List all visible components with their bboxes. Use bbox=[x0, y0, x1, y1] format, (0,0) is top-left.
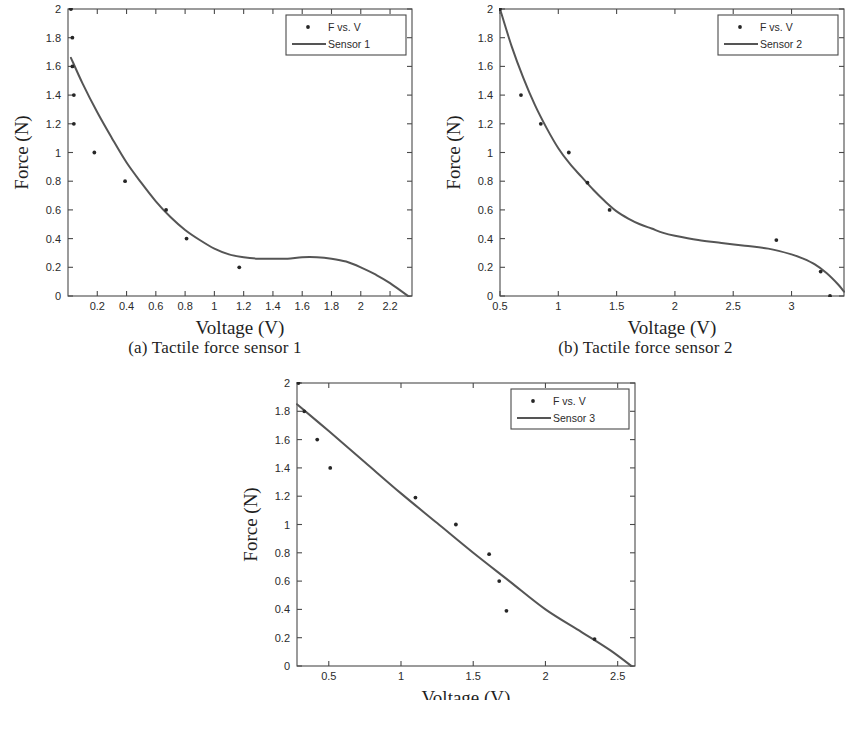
svg-text:0.8: 0.8 bbox=[46, 175, 61, 187]
svg-text:1.2: 1.2 bbox=[275, 490, 290, 502]
svg-text:2: 2 bbox=[55, 3, 61, 15]
svg-text:0.5: 0.5 bbox=[492, 300, 507, 312]
svg-text:1.4: 1.4 bbox=[275, 462, 290, 474]
svg-text:0.8: 0.8 bbox=[177, 300, 192, 312]
svg-text:1: 1 bbox=[211, 300, 217, 312]
x-axis-title: Voltage (V) bbox=[196, 317, 285, 339]
svg-text:2: 2 bbox=[358, 300, 364, 312]
svg-text:0: 0 bbox=[55, 290, 61, 302]
chart-panel-sensor-3: 0.511.522.500.20.40.60.811.21.41.61.82Vo… bbox=[215, 370, 655, 742]
svg-text:2.5: 2.5 bbox=[610, 670, 625, 682]
svg-text:1: 1 bbox=[555, 300, 561, 312]
legend-series-label: Sensor 2 bbox=[760, 38, 802, 50]
svg-text:1.8: 1.8 bbox=[275, 405, 290, 417]
svg-text:1: 1 bbox=[398, 670, 404, 682]
plot-area-sensor-1: 0.20.40.60.811.21.41.61.822.200.20.40.60… bbox=[0, 0, 430, 340]
plot-area-sensor-2: 0.511.522.5300.20.40.60.811.21.41.61.82V… bbox=[430, 0, 861, 340]
svg-text:1.5: 1.5 bbox=[609, 300, 624, 312]
svg-text:2: 2 bbox=[487, 3, 493, 15]
svg-text:0.6: 0.6 bbox=[46, 204, 61, 216]
y-axis-title: Force (N) bbox=[240, 487, 262, 561]
svg-text:0.2: 0.2 bbox=[275, 632, 290, 644]
svg-text:0.4: 0.4 bbox=[275, 603, 290, 615]
x-axis-title: Voltage (V) bbox=[628, 317, 717, 339]
svg-text:0.4: 0.4 bbox=[46, 233, 61, 245]
svg-text:0.6: 0.6 bbox=[478, 204, 493, 216]
svg-text:3: 3 bbox=[788, 300, 794, 312]
svg-text:0: 0 bbox=[487, 290, 493, 302]
svg-text:2: 2 bbox=[672, 300, 678, 312]
legend-marker-label: F vs. V bbox=[553, 395, 586, 407]
plot-area-sensor-3: 0.511.522.500.20.40.60.811.21.41.61.82Vo… bbox=[215, 370, 655, 700]
svg-text:0: 0 bbox=[284, 660, 290, 672]
svg-text:2.2: 2.2 bbox=[382, 300, 397, 312]
plot-svg-sensor-1: 0.20.40.60.811.21.41.61.822.200.20.40.60… bbox=[0, 0, 430, 340]
svg-text:0.2: 0.2 bbox=[90, 300, 105, 312]
svg-text:1.5: 1.5 bbox=[466, 670, 481, 682]
svg-text:1: 1 bbox=[55, 147, 61, 159]
svg-text:1.6: 1.6 bbox=[46, 60, 61, 72]
x-axis-title: Voltage (V) bbox=[422, 687, 511, 700]
figure-root: 0.20.40.60.811.21.41.61.822.200.20.40.60… bbox=[0, 0, 861, 742]
svg-text:0.8: 0.8 bbox=[478, 175, 493, 187]
svg-text:1.4: 1.4 bbox=[478, 89, 493, 101]
svg-text:0.6: 0.6 bbox=[148, 300, 163, 312]
chart-panel-sensor-1: 0.20.40.60.811.21.41.61.822.200.20.40.60… bbox=[0, 0, 430, 365]
svg-text:1.2: 1.2 bbox=[236, 300, 251, 312]
chart-panel-sensor-2: 0.511.522.5300.20.40.60.811.21.41.61.82V… bbox=[430, 0, 861, 365]
svg-text:0.6: 0.6 bbox=[275, 575, 290, 587]
svg-text:2: 2 bbox=[542, 670, 548, 682]
legend-series-label: Sensor 3 bbox=[553, 412, 595, 424]
svg-text:0.4: 0.4 bbox=[478, 233, 493, 245]
svg-text:1.6: 1.6 bbox=[275, 434, 290, 446]
svg-text:2: 2 bbox=[284, 377, 290, 389]
svg-text:1: 1 bbox=[284, 519, 290, 531]
panel-caption-b: (b) Tactile force sensor 2 bbox=[430, 338, 861, 358]
legend-marker-label: F vs. V bbox=[328, 21, 361, 33]
plot-svg-sensor-2: 0.511.522.5300.20.40.60.811.21.41.61.82V… bbox=[430, 0, 861, 340]
legend-series-label: Sensor 1 bbox=[328, 38, 370, 50]
svg-text:0.5: 0.5 bbox=[321, 670, 336, 682]
legend-marker-label: F vs. V bbox=[760, 21, 793, 33]
svg-text:1.4: 1.4 bbox=[265, 300, 280, 312]
panel-caption-a: (a) Tactile force sensor 1 bbox=[0, 338, 430, 358]
svg-text:0.4: 0.4 bbox=[119, 300, 134, 312]
svg-text:1.8: 1.8 bbox=[478, 32, 493, 44]
svg-text:1: 1 bbox=[487, 147, 493, 159]
svg-text:2.5: 2.5 bbox=[726, 300, 741, 312]
svg-text:1.6: 1.6 bbox=[295, 300, 310, 312]
y-axis-title: Force (N) bbox=[11, 115, 33, 189]
svg-text:1.2: 1.2 bbox=[46, 118, 61, 130]
svg-text:1.4: 1.4 bbox=[46, 89, 61, 101]
svg-text:0.2: 0.2 bbox=[46, 261, 61, 273]
svg-text:1.6: 1.6 bbox=[478, 60, 493, 72]
svg-text:1.8: 1.8 bbox=[324, 300, 339, 312]
plot-svg-sensor-3: 0.511.522.500.20.40.60.811.21.41.61.82Vo… bbox=[215, 370, 655, 700]
svg-text:0.8: 0.8 bbox=[275, 547, 290, 559]
y-axis-title: Force (N) bbox=[443, 115, 465, 189]
svg-text:0.2: 0.2 bbox=[478, 261, 493, 273]
svg-text:1.2: 1.2 bbox=[478, 118, 493, 130]
svg-text:1.8: 1.8 bbox=[46, 32, 61, 44]
